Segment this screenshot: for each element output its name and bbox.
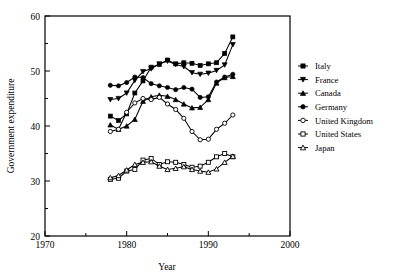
- x-tick-label: 1970: [36, 240, 55, 250]
- marker-filled-circle: [108, 83, 112, 87]
- marker-filled-square: [223, 51, 227, 55]
- legend-label: Germany: [315, 102, 348, 112]
- marker-open-circle: [198, 138, 202, 142]
- marker-open-square: [301, 132, 305, 136]
- marker-open-circle: [157, 95, 161, 99]
- marker-filled-circle: [214, 80, 218, 84]
- marker-open-square: [166, 160, 170, 164]
- marker-open-square: [223, 152, 227, 156]
- marker-filled-square: [108, 114, 112, 118]
- marker-open-circle: [125, 110, 129, 114]
- marker-filled-circle: [157, 84, 161, 88]
- marker-filled-circle: [231, 72, 235, 76]
- marker-open-circle: [116, 127, 120, 131]
- legend-label: Italy: [315, 61, 331, 71]
- marker-filled-square: [117, 119, 121, 123]
- marker-filled-square: [231, 35, 235, 39]
- marker-filled-circle: [133, 75, 137, 79]
- y-axis-title: Government expenditure: [6, 79, 16, 174]
- x-tick-label: 2000: [281, 240, 300, 250]
- marker-open-square: [198, 164, 202, 168]
- marker-filled-square: [215, 61, 219, 65]
- marker-open-circle: [206, 137, 210, 141]
- marker-open-square: [215, 155, 219, 159]
- marker-filled-circle: [206, 95, 210, 99]
- marker-open-circle: [301, 118, 305, 122]
- x-axis-title: Year: [158, 262, 176, 272]
- marker-filled-circle: [125, 80, 129, 84]
- government-expenditure-line-chart: 19701980199020002030405060 Year Governme…: [0, 0, 403, 278]
- marker-open-circle: [223, 121, 227, 125]
- marker-filled-circle: [182, 85, 186, 89]
- marker-open-circle: [214, 127, 218, 131]
- legend-label: Japan: [315, 143, 335, 153]
- marker-filled-circle: [301, 105, 305, 109]
- marker-filled-circle: [165, 85, 169, 89]
- marker-filled-square: [133, 91, 137, 95]
- marker-filled-circle: [223, 75, 227, 79]
- marker-open-circle: [174, 107, 178, 111]
- marker-open-circle: [190, 129, 194, 133]
- legend-label: Canada: [315, 88, 341, 98]
- x-tick-label: 1990: [199, 240, 218, 250]
- marker-filled-circle: [116, 84, 120, 88]
- y-tick-label: 60: [31, 12, 41, 22]
- marker-filled-circle: [190, 87, 194, 91]
- y-tick-label: 30: [31, 177, 41, 187]
- marker-filled-square: [190, 61, 194, 65]
- marker-open-circle: [149, 98, 153, 102]
- legend-label: United Kingdom: [315, 116, 373, 126]
- marker-filled-circle: [141, 76, 145, 80]
- legend-label: United States: [315, 129, 362, 139]
- x-tick-label: 1980: [117, 240, 136, 250]
- marker-filled-square: [206, 62, 210, 66]
- marker-open-square: [133, 167, 137, 171]
- marker-open-circle: [231, 113, 235, 117]
- marker-open-circle: [108, 129, 112, 133]
- y-tick-label: 20: [31, 232, 41, 242]
- marker-open-circle: [165, 102, 169, 106]
- marker-filled-circle: [174, 88, 178, 92]
- marker-filled-square: [301, 64, 305, 68]
- marker-open-square: [174, 160, 178, 164]
- marker-open-circle: [141, 96, 145, 100]
- marker-open-circle: [182, 116, 186, 120]
- marker-filled-square: [198, 64, 202, 68]
- legend-label: France: [315, 75, 339, 85]
- y-tick-label: 50: [31, 67, 41, 77]
- y-tick-label: 40: [31, 122, 41, 132]
- chart-figure: 19701980199020002030405060 Year Governme…: [0, 0, 403, 278]
- marker-filled-circle: [149, 82, 153, 86]
- marker-filled-circle: [198, 95, 202, 99]
- marker-open-square: [206, 160, 210, 164]
- marker-open-circle: [133, 101, 137, 105]
